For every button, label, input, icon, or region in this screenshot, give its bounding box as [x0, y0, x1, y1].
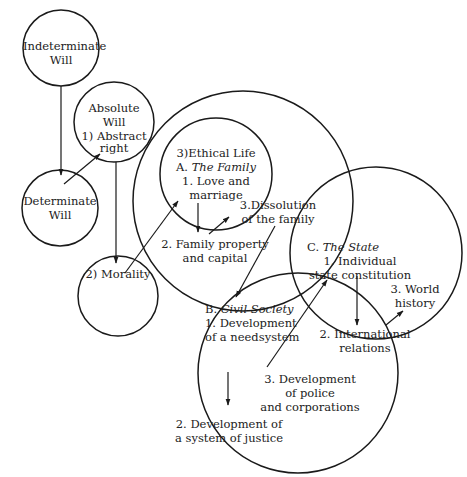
world-history-line2: history	[380, 296, 450, 310]
justice-line1: 2. Development of	[170, 417, 288, 431]
needsystem-line1: 1. Development	[205, 316, 325, 330]
edge-determinate-to-abstract-right	[64, 154, 100, 184]
constitution-line2: state constitution	[305, 268, 415, 282]
family-property-line1: 2. Family property	[160, 237, 270, 251]
needsystem-line2: of a needsystem	[205, 330, 325, 344]
dissolution-line2: of the family	[228, 212, 328, 226]
morality-line1: 2) Morality	[80, 267, 156, 281]
indeterminate-will-label: Indeterminate Will	[23, 39, 99, 67]
international-line2: relations	[310, 341, 420, 355]
justice-line2: a system of justice	[170, 431, 288, 445]
police-corporations-label: 3. Development of police and corporation…	[250, 372, 370, 414]
police-line3: and corporations	[250, 400, 370, 414]
determinate-will-label: Determinate Will	[22, 194, 98, 222]
civil-society-prefix: B.	[205, 302, 221, 316]
state-title-line: C. The State	[307, 240, 417, 254]
edge-international-to-world-history	[386, 311, 403, 325]
family-property-label: 2. Family property and capital	[160, 237, 270, 265]
justice-label: 2. Development of a system of justice	[170, 417, 288, 445]
dissolution-line1: 3.Dissolution	[228, 198, 328, 212]
family-property-line2: and capital	[160, 251, 270, 265]
indeterminate-will-line1: Indeterminate	[23, 39, 99, 53]
civil-society-title-line: B. Civil Society	[205, 302, 325, 316]
constitution-line1: 1. Individual	[305, 254, 415, 268]
absolute-will-line2: Will	[76, 115, 152, 129]
ethical-life-title: 3)Ethical Life	[166, 146, 266, 160]
family-title: The Family	[192, 160, 256, 174]
determinate-will-line1: Determinate	[22, 194, 98, 208]
world-history-label: 3. World history	[380, 282, 450, 310]
state-title: The State	[323, 240, 379, 254]
love-marriage-line1: 1. Love and	[166, 174, 266, 188]
family-title-line: A. The Family	[166, 160, 266, 174]
morality-label: 2) Morality	[80, 267, 156, 281]
absolute-will-label: Absolute Will 1) Abstract right	[76, 101, 152, 155]
state-header-label: C. The State	[307, 240, 417, 254]
edge-property-to-dissolution	[209, 217, 229, 234]
abstract-right-line2: right	[76, 141, 152, 155]
civil-society-title: Civil Society	[221, 302, 294, 316]
police-line1: 3. Development	[250, 372, 370, 386]
civil-society-header-label: B. Civil Society 1. Development of a nee…	[205, 302, 325, 344]
state-prefix: C.	[307, 240, 323, 254]
police-line2: of police	[250, 386, 370, 400]
family-header-label: 3)Ethical Life A. The Family 1. Love and…	[166, 146, 266, 202]
international-relations-label: 2. International relations	[310, 327, 420, 355]
world-history-line1: 3. World	[380, 282, 450, 296]
state-constitution-label: 1. Individual state constitution	[305, 254, 415, 282]
indeterminate-will-line2: Will	[23, 53, 99, 67]
international-line1: 2. International	[310, 327, 420, 341]
determinate-will-line2: Will	[22, 208, 98, 222]
family-prefix: A.	[176, 160, 192, 174]
dissolution-label: 3.Dissolution of the family	[228, 198, 328, 226]
absolute-will-line1: Absolute	[76, 101, 152, 115]
